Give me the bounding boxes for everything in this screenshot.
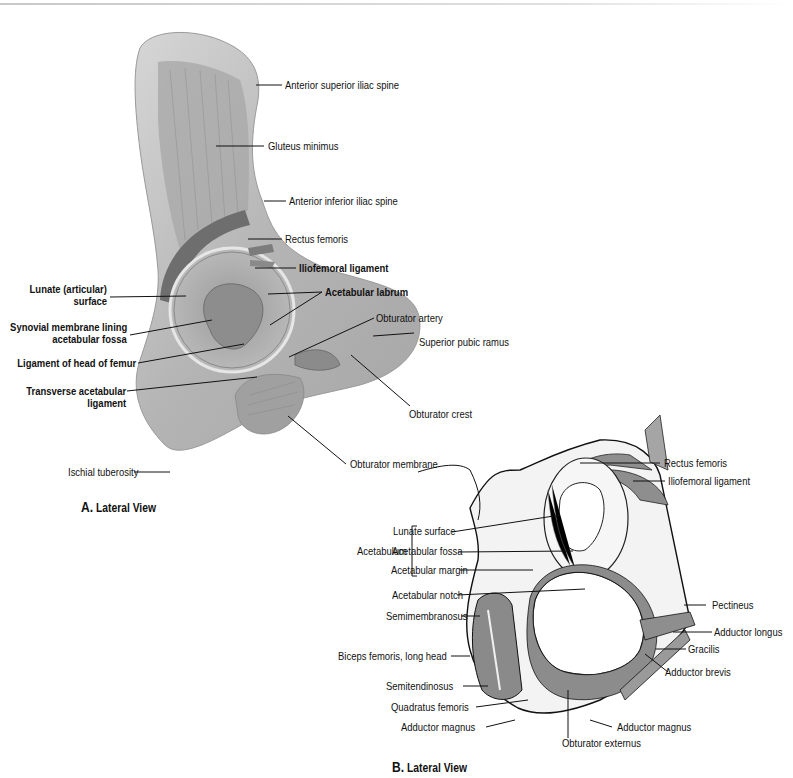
label-obturator-artery: Obturator artery (376, 312, 443, 325)
label-acetabular-notch: Acetabular notch (392, 589, 463, 602)
label-rectus-femoris-a: Rectus femoris (285, 233, 348, 246)
label-biceps-femoris: Biceps femoris, long head (338, 650, 447, 663)
label-ischial-tuberosity: Ischial tuberosity (68, 466, 138, 479)
label-anterior-superior-iliac-spine: Anterior superior iliac spine (285, 79, 399, 92)
label-gluteus-minimus: Gluteus minimus (268, 140, 338, 153)
label-obturator-externus: Obturator externus (562, 737, 641, 750)
label-lunate-surface-line2: surface (73, 295, 107, 308)
label-semitendinosus: Semitendinosus (386, 680, 453, 693)
label-pectineus: Pectineus (712, 599, 754, 612)
label-semimembranosus: Semimembranosus (386, 610, 467, 623)
caption-b-letter: B. (392, 759, 404, 775)
caption-a-letter: A. (81, 499, 93, 515)
label-synovial-membrane-line2: acetabular fossa (52, 333, 127, 346)
label-superior-pubic-ramus: Superior pubic ramus (419, 336, 509, 349)
label-ligament-head-femur: Ligament of head of femur (17, 357, 136, 370)
figure-a-hip-bone (135, 32, 420, 450)
caption-figure-b: B. Lateral View (392, 759, 467, 775)
caption-figure-a: A. Lateral View (81, 499, 156, 515)
label-anterior-inferior-iliac-spine: Anterior inferior iliac spine (289, 195, 398, 208)
label-adductor-longus: Adductor longus (714, 626, 782, 639)
label-adductor-magnus-left: Adductor magnus (401, 721, 475, 734)
label-adductor-brevis: Adductor brevis (665, 666, 731, 679)
label-acetabular-fossa: Acetabular fossa (392, 545, 462, 558)
label-iliofemoral-ligament-b: Iliofemoral ligament (668, 475, 750, 488)
label-obturator-crest: Obturator crest (409, 408, 472, 421)
label-acetabular-margin: Acetabular margin (391, 564, 468, 577)
label-transverse-acetabular-line2: ligament (87, 397, 126, 410)
label-iliofemoral-ligament-a: Iliofemoral ligament (299, 262, 388, 275)
label-quadratus-femoris: Quadratus femoris (391, 701, 469, 714)
label-adductor-magnus-right: Adductor magnus (617, 721, 691, 734)
caption-a-text: Lateral View (96, 501, 156, 515)
label-gracilis: Gracilis (688, 643, 720, 656)
caption-b-text: Lateral View (407, 761, 467, 775)
label-lunate-surface-b: Lunate surface (393, 525, 456, 538)
label-obturator-membrane: Obturator membrane (350, 458, 438, 471)
label-rectus-femoris-b: Rectus femoris (664, 457, 727, 470)
label-acetabular-labrum: Acetabular labrum (325, 286, 408, 299)
